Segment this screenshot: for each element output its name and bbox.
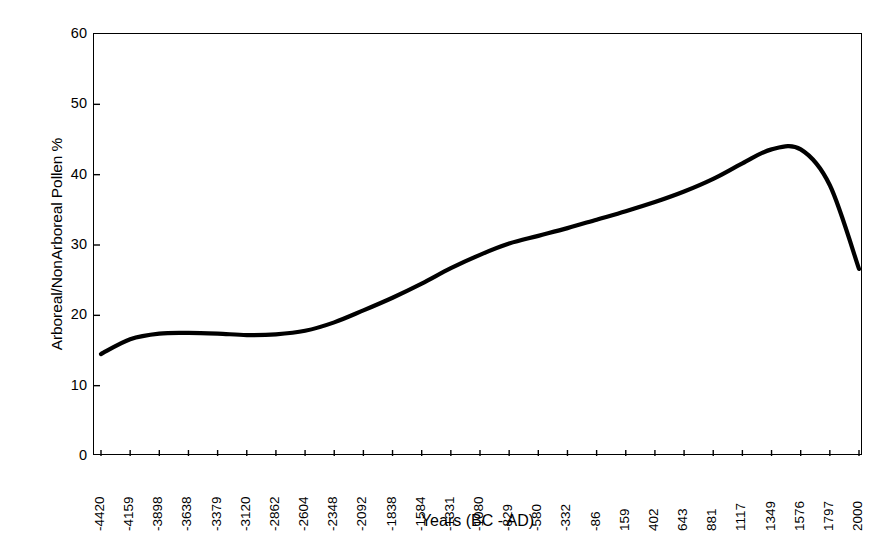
y-axis-tick-label: 40 bbox=[55, 166, 87, 181]
y-axis-tick-label: 10 bbox=[55, 377, 87, 392]
y-axis-tick-labels: 0102030405060 bbox=[55, 0, 87, 553]
y-axis-tick-label: 0 bbox=[55, 448, 87, 463]
pollen-percentage-line-chart: Arboreal/NonArboreal Pollen % 0102030405… bbox=[0, 0, 891, 553]
y-axis-tickmarks bbox=[94, 104, 100, 385]
plot-area bbox=[93, 33, 862, 455]
plot-canvas bbox=[94, 34, 863, 456]
y-axis-tick-label: 20 bbox=[55, 307, 87, 322]
pollen-data-line bbox=[101, 146, 859, 354]
y-axis-tick-label: 50 bbox=[55, 96, 87, 111]
y-axis-tick-label: 30 bbox=[55, 237, 87, 252]
y-axis-tick-label: 60 bbox=[55, 26, 87, 41]
x-axis-title: Years (BC - AD) bbox=[93, 512, 862, 530]
